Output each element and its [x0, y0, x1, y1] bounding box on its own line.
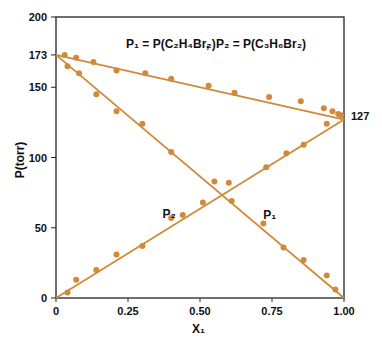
chart-svg: P₁ = P(C₂H₄Br₂) , P₂ = P(C₃H₆Br₂) X₁ P(t…: [0, 0, 382, 344]
x-tick-label: 0.25: [117, 305, 138, 317]
data-point-p1: [139, 121, 145, 127]
y-tick-label: 150: [29, 81, 47, 93]
data-point-p2: [180, 212, 186, 218]
x-tick-label: 0.50: [189, 305, 210, 317]
data-point-p1: [229, 198, 235, 204]
data-point-p1: [301, 257, 307, 263]
series-label-p1: P₁: [263, 208, 276, 222]
data-point-p2: [65, 289, 71, 295]
data-point-p1: [211, 178, 217, 184]
data-point-p2: [93, 267, 99, 273]
plot-frame: [56, 17, 344, 298]
data-point-p-total: [90, 59, 96, 65]
series-line-p-total: [56, 55, 344, 120]
annotation-sep: ,: [206, 37, 209, 51]
data-point-p2: [263, 164, 269, 170]
data-point-p-total: [298, 98, 304, 104]
data-point-p1: [332, 287, 338, 293]
data-point-p-total: [168, 76, 174, 82]
data-point-p-total: [321, 105, 327, 111]
data-point-p2: [73, 277, 79, 283]
data-point-p2: [200, 199, 206, 205]
y-axis-label: P(torr): [13, 142, 27, 179]
data-point-p-total: [266, 94, 272, 100]
data-point-p2: [338, 112, 344, 118]
data-point-p1: [324, 273, 330, 279]
x-tick-label: 0.75: [261, 305, 282, 317]
series-line-p2: [56, 120, 344, 298]
data-point-p1: [168, 149, 174, 155]
series-label-p2: P₂: [163, 207, 176, 221]
data-point-p2: [301, 142, 307, 148]
x-axis-label: X₁: [192, 322, 205, 336]
y-tick-label: 0: [41, 292, 47, 304]
data-point-p1: [113, 108, 119, 114]
chart: P₁ = P(C₂H₄Br₂) , P₂ = P(C₃H₆Br₂) X₁ P(t…: [0, 0, 382, 344]
y-tick-label: 50: [35, 222, 47, 234]
data-point-p2: [113, 251, 119, 257]
data-point-p2: [139, 243, 145, 249]
data-point-p-total: [142, 70, 148, 76]
data-point-p-total: [113, 67, 119, 73]
data-point-p1: [65, 63, 71, 69]
data-point-p-total: [232, 90, 238, 96]
data-point-p1: [76, 70, 82, 76]
annotation-p1: P₁ = P(C₂H₄Br₂): [126, 37, 216, 51]
data-point-p2: [324, 121, 330, 127]
x-tick-label: 0: [53, 305, 59, 317]
data-point-p-total: [73, 55, 79, 61]
y-tick-label: 173: [29, 49, 47, 61]
x-tick-label: 1.00: [333, 305, 354, 317]
data-point-p2: [283, 150, 289, 156]
data-point-p-total: [62, 52, 68, 58]
data-point-p-total: [329, 108, 335, 114]
right-label-127: 127: [351, 110, 369, 122]
data-point-p1: [281, 244, 287, 250]
y-tick-label: 200: [29, 11, 47, 23]
data-point-p2: [226, 180, 232, 186]
data-point-p1: [93, 91, 99, 97]
annotation-p2: P₂ = P(C₃H₆Br₂): [216, 37, 306, 51]
series-line-p1: [56, 55, 344, 298]
data-point-p-total: [206, 83, 212, 89]
y-tick-label: 100: [29, 152, 47, 164]
